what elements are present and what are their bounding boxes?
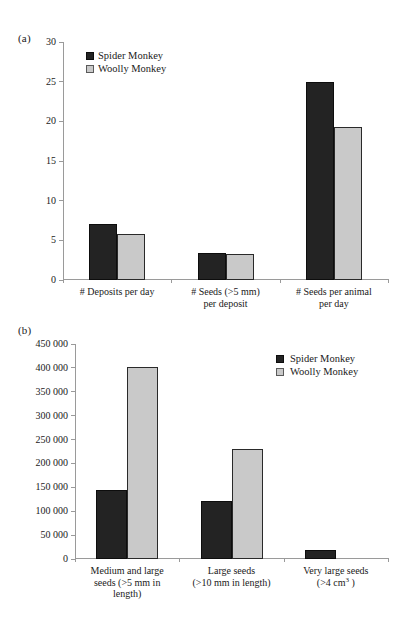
bar-spider-monkey bbox=[201, 501, 232, 559]
y-tick-label: 25 bbox=[34, 77, 56, 87]
y-tick-mark bbox=[71, 511, 75, 512]
y-tick-label: 50 000 bbox=[22, 530, 68, 540]
panel-a-letter: (a) bbox=[18, 32, 31, 44]
x-tick-mark bbox=[63, 279, 64, 283]
x-axis-group-label-line: # Seeds per animal bbox=[274, 286, 394, 298]
y-tick-label: 150 000 bbox=[22, 482, 68, 492]
x-tick-mark bbox=[171, 279, 172, 283]
bar-spider-monkey bbox=[198, 253, 226, 280]
y-tick-mark bbox=[71, 535, 75, 536]
panel-b-letter: (b) bbox=[18, 324, 31, 336]
x-tick-mark bbox=[388, 279, 389, 283]
x-tick-mark bbox=[75, 558, 76, 562]
legend-label-woolly-monkey: Woolly Monkey bbox=[290, 366, 358, 377]
y-tick-mark bbox=[59, 42, 63, 43]
y-tick-mark bbox=[71, 415, 75, 416]
legend-item-spider-monkey: Spider Monkey bbox=[86, 50, 166, 61]
y-tick-mark bbox=[59, 81, 63, 82]
legend-a: Spider Monkey Woolly Monkey bbox=[86, 50, 166, 76]
x-tick-mark bbox=[179, 558, 180, 562]
x-axis-group-label-line: # Seeds (>5 mm) bbox=[166, 286, 286, 298]
bar-woolly-monkey bbox=[232, 449, 263, 559]
x-axis-group-label-line: Very large seeds bbox=[273, 565, 398, 577]
bar-spider-monkey bbox=[306, 82, 334, 280]
bar-woolly-monkey bbox=[226, 254, 254, 280]
panel-a: (a) 051015202530 # Deposits per day# See… bbox=[0, 0, 404, 311]
legend-label-spider-monkey: Spider Monkey bbox=[98, 50, 163, 61]
x-axis-group-label-line: length) bbox=[65, 588, 190, 600]
y-tick-mark bbox=[71, 367, 75, 368]
y-tick-mark bbox=[59, 200, 63, 201]
legend-swatch-woolly-monkey-icon bbox=[276, 368, 284, 376]
x-axis-group-label-line: per day bbox=[274, 298, 394, 310]
y-tick-label: 400 000 bbox=[22, 363, 68, 373]
x-axis-group-label: # Seeds per animalper day bbox=[274, 286, 394, 309]
bar-spider-monkey bbox=[305, 550, 336, 559]
y-tick-mark bbox=[71, 463, 75, 464]
x-axis-group-label: Very large seeds(>4 cm3 ) bbox=[273, 565, 398, 588]
y-tick-label: 0 bbox=[22, 554, 68, 564]
figure-two-panel-bar-charts: (a) 051015202530 # Deposits per day# See… bbox=[0, 0, 404, 622]
y-tick-mark bbox=[59, 161, 63, 162]
panel-b: (b) 050 000100 000150 000200 000250 0003… bbox=[0, 311, 404, 622]
x-tick-mark bbox=[388, 558, 389, 562]
y-tick-mark bbox=[71, 391, 75, 392]
y-tick-mark bbox=[71, 439, 75, 440]
y-axis-line-a bbox=[63, 42, 64, 280]
y-tick-label: 300 000 bbox=[22, 411, 68, 421]
y-tick-label: 30 bbox=[34, 37, 56, 47]
y-tick-mark bbox=[71, 344, 75, 345]
legend-b: Spider Monkey Woolly Monkey bbox=[276, 353, 358, 379]
y-tick-label: 0 bbox=[34, 275, 56, 285]
x-axis-group-label-line: (>4 cm3 ) bbox=[273, 577, 398, 589]
bar-woolly-monkey bbox=[117, 234, 145, 280]
x-axis-group-label: # Deposits per day bbox=[57, 286, 177, 298]
y-tick-label: 10 bbox=[34, 196, 56, 206]
legend-swatch-spider-monkey-icon bbox=[86, 52, 94, 60]
legend-item-woolly-monkey: Woolly Monkey bbox=[86, 63, 166, 74]
bar-woolly-monkey bbox=[127, 367, 158, 559]
y-tick-label: 20 bbox=[34, 116, 56, 126]
y-tick-label: 100 000 bbox=[22, 506, 68, 516]
bar-woolly-monkey bbox=[334, 127, 362, 280]
y-tick-label: 15 bbox=[34, 156, 56, 166]
y-tick-label: 350 000 bbox=[22, 387, 68, 397]
y-tick-mark bbox=[71, 487, 75, 488]
x-tick-mark bbox=[280, 279, 281, 283]
bar-spider-monkey bbox=[96, 490, 127, 559]
y-tick-label: 200 000 bbox=[22, 458, 68, 468]
superscript-three: 3 bbox=[346, 575, 350, 583]
y-tick-mark bbox=[59, 121, 63, 122]
x-tick-mark bbox=[284, 558, 285, 562]
y-tick-label: 450 000 bbox=[22, 339, 68, 349]
plot-area-a: 051015202530 bbox=[63, 42, 388, 280]
x-axis-group-label: # Seeds (>5 mm)per deposit bbox=[166, 286, 286, 309]
x-axis-group-label-line: # Deposits per day bbox=[57, 286, 177, 298]
y-tick-label: 250 000 bbox=[22, 435, 68, 445]
x-axis-group-label-line: per deposit bbox=[166, 298, 286, 310]
bar-spider-monkey bbox=[89, 224, 117, 280]
legend-item-spider-monkey: Spider Monkey bbox=[276, 353, 358, 364]
legend-item-woolly-monkey: Woolly Monkey bbox=[276, 366, 358, 377]
legend-label-spider-monkey: Spider Monkey bbox=[290, 353, 355, 364]
y-tick-mark bbox=[59, 240, 63, 241]
y-tick-label: 5 bbox=[34, 235, 56, 245]
y-axis-line-b bbox=[75, 344, 76, 559]
legend-label-woolly-monkey: Woolly Monkey bbox=[98, 63, 166, 74]
legend-swatch-spider-monkey-icon bbox=[276, 355, 284, 363]
legend-swatch-woolly-monkey-icon bbox=[86, 65, 94, 73]
